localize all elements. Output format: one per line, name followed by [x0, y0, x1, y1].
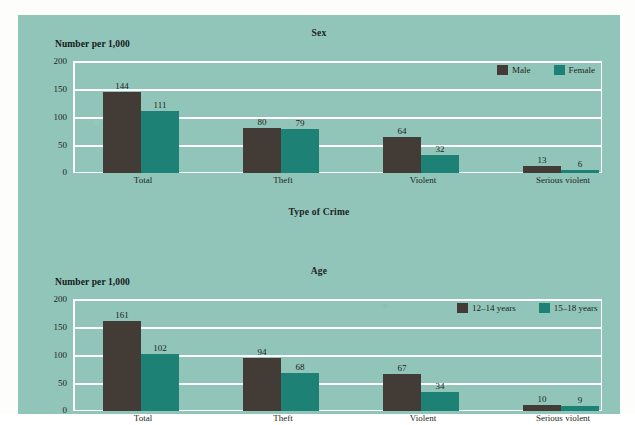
bar-female-violent[interactable]: 32	[421, 155, 459, 173]
bar-male-serious-violent[interactable]: 13	[523, 166, 561, 173]
bar-value-15-18-serious-violent: 9	[578, 395, 583, 405]
bar-12-14-violent[interactable]: 67	[383, 374, 421, 412]
category-label-total-age: Total	[88, 413, 198, 423]
category-label-violent-age: Violent	[368, 413, 478, 423]
bar-12-14-serious-violent[interactable]: 10	[523, 405, 561, 411]
bar-15-18-serious-violent[interactable]: 9	[561, 406, 599, 411]
legend-item-12-14-years: 12–14 years	[457, 303, 516, 313]
bar-value-12-14-theft: 94	[258, 347, 267, 357]
legend-swatch-15-18-years	[539, 303, 550, 313]
legend-swatch-male	[497, 65, 508, 75]
gridline-200-age: 200	[73, 299, 602, 301]
y-tick-0-sex: 0	[63, 167, 68, 177]
bar-value-male-theft: 80	[258, 117, 267, 127]
y-tick-150-age: 150	[54, 322, 68, 332]
gridline-200-sex: 200	[73, 61, 602, 63]
category-label-serious-violent-age: Serious violent	[508, 413, 618, 423]
bar-value-15-18-theft: 68	[296, 362, 305, 372]
bar-12-14-theft[interactable]: 94	[243, 358, 281, 411]
legend-item-15-18-years: 15–18 years	[539, 303, 598, 313]
category-label-serious-violent-sex: Serious violent	[508, 175, 618, 185]
y-tick-200-age: 200	[54, 294, 68, 304]
y-tick-200-sex: 200	[54, 56, 68, 66]
chart-title-sex: Sex	[18, 28, 620, 38]
category-label-theft-age: Theft	[228, 413, 338, 423]
y-tick-100-sex: 100	[54, 112, 68, 122]
legend-label-12-14-years: 12–14 years	[472, 303, 516, 313]
plot-area-age: 200 150 100 50 0 12–14 years	[73, 299, 602, 411]
bar-value-12-14-serious-violent: 10	[538, 394, 547, 404]
bar-female-theft[interactable]: 79	[281, 129, 319, 173]
chart-sex: Sex Number per 1,000 Type of Crime 200 1…	[18, 15, 620, 235]
bar-value-12-14-total: 161	[115, 310, 129, 320]
bar-value-15-18-violent: 34	[436, 381, 445, 391]
y-tick-100-age: 100	[54, 350, 68, 360]
bar-value-15-18-total: 102	[153, 343, 167, 353]
bar-value-female-violent: 32	[436, 144, 445, 154]
bar-male-violent[interactable]: 64	[383, 137, 421, 173]
bar-value-male-total: 144	[115, 81, 129, 91]
bar-male-total[interactable]: 144	[103, 92, 141, 173]
figure-panel: Sex Number per 1,000 Type of Crime 200 1…	[18, 15, 620, 414]
legend-age: 12–14 years 15–18 years	[457, 303, 598, 313]
bar-15-18-total[interactable]: 102	[141, 354, 179, 411]
legend-sex: Male Female	[497, 65, 595, 75]
bar-value-12-14-violent: 67	[398, 363, 407, 373]
bar-value-female-total: 111	[154, 100, 167, 110]
bar-12-14-total[interactable]: 161	[103, 321, 141, 411]
legend-swatch-female	[554, 65, 565, 75]
bar-female-serious-violent[interactable]: 6	[561, 170, 599, 173]
bar-female-total[interactable]: 111	[141, 111, 179, 173]
category-label-total-sex: Total	[88, 175, 198, 185]
category-label-theft-sex: Theft	[228, 175, 338, 185]
y-tick-50-age: 50	[58, 378, 67, 388]
bar-15-18-violent[interactable]: 34	[421, 392, 459, 411]
category-label-violent-sex: Violent	[368, 175, 478, 185]
gridline-150-sex: 150	[73, 89, 602, 91]
bar-value-female-serious-violent: 6	[578, 159, 583, 169]
y-tick-50-sex: 50	[58, 140, 67, 150]
bar-value-male-violent: 64	[398, 126, 407, 136]
bar-value-male-serious-violent: 13	[538, 155, 547, 165]
plot-area-sex: 200 150 100 50 0 Male	[73, 61, 602, 173]
legend-item-female: Female	[554, 65, 596, 75]
y-axis-title-sex: Number per 1,000	[55, 39, 130, 49]
gridline-150-age: 150	[73, 327, 602, 329]
legend-label-male: Male	[512, 65, 531, 75]
y-tick-150-sex: 150	[54, 84, 68, 94]
chart-age: Age Number per 1,000 200 150 100 50	[18, 253, 620, 425]
y-tick-0-age: 0	[63, 405, 68, 415]
legend-swatch-12-14-years	[457, 303, 468, 313]
x-axis-title-sex: Type of Crime	[18, 207, 620, 217]
chart-title-age: Age	[18, 266, 620, 276]
bar-male-theft[interactable]: 80	[243, 128, 281, 173]
bar-value-female-theft: 79	[296, 118, 305, 128]
legend-item-male: Male	[497, 65, 531, 75]
bar-15-18-theft[interactable]: 68	[281, 373, 319, 411]
legend-label-15-18-years: 15–18 years	[554, 303, 598, 313]
legend-label-female: Female	[569, 65, 596, 75]
y-axis-title-age: Number per 1,000	[55, 277, 130, 287]
